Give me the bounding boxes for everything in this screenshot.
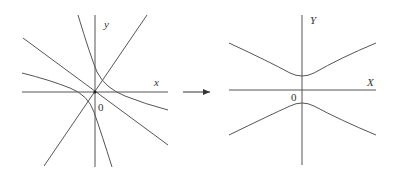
left-plot: y x 0 [22, 15, 168, 167]
diagram-canvas: y x 0 Y X 0 [0, 0, 398, 177]
left-origin-dot [94, 91, 97, 94]
left-x-label: x [153, 76, 159, 88]
left-y-label: y [103, 18, 109, 30]
right-x-label: X [366, 76, 375, 88]
right-y-label: Y [310, 14, 318, 26]
left-hyperbola-branch-2 [22, 73, 112, 167]
left-origin-label: 0 [98, 101, 104, 113]
right-plot: Y X 0 [229, 14, 376, 165]
right-origin-label: 0 [291, 91, 297, 103]
